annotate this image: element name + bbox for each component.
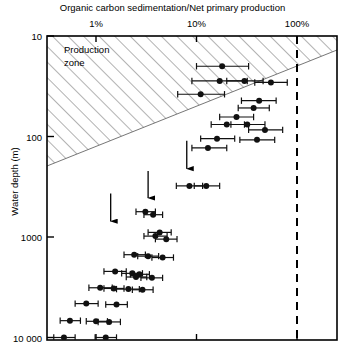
y-tick-label-100: 100 bbox=[0, 131, 42, 142]
production-zone-label-line2: zone bbox=[64, 57, 85, 68]
chart-figure: Organic carbon sedimentation/Net primary… bbox=[0, 0, 345, 356]
y-tick-label-10000: 10 000 bbox=[0, 332, 42, 343]
scatter-plot-canvas bbox=[0, 0, 345, 356]
y-tick-label-1000: 1000 bbox=[0, 232, 42, 243]
x-tick-label-1pct: 1% bbox=[89, 18, 103, 29]
x-tick-label-100pct: 100% bbox=[285, 18, 309, 29]
y-tick-label-10: 10 bbox=[0, 31, 42, 42]
production-zone-label-line1: Production bbox=[64, 44, 109, 55]
upper-limit-arrows bbox=[111, 141, 187, 222]
x-tick-label-10pct: 10% bbox=[187, 18, 206, 29]
